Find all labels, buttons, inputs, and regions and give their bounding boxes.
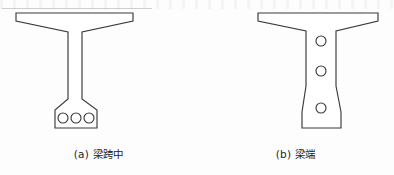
- beam-outline-a: [16, 13, 133, 128]
- duct-hole-a-3: [84, 113, 94, 123]
- figure-sheet: (a) 梁跨中 (b) 梁端: [0, 0, 394, 175]
- duct-hole-b-3: [316, 103, 326, 113]
- panel-b-beamend-section: [258, 13, 378, 128]
- duct-hole-b-2: [316, 66, 326, 76]
- panel-a-caption: (a) 梁跨中: [0, 146, 197, 161]
- panel-b-caption: (b) 梁端: [197, 146, 394, 161]
- duct-hole-a-2: [71, 113, 81, 123]
- panel-a-midspan-section: [16, 13, 133, 128]
- duct-hole-b-1: [316, 36, 326, 46]
- duct-hole-a-1: [58, 113, 68, 123]
